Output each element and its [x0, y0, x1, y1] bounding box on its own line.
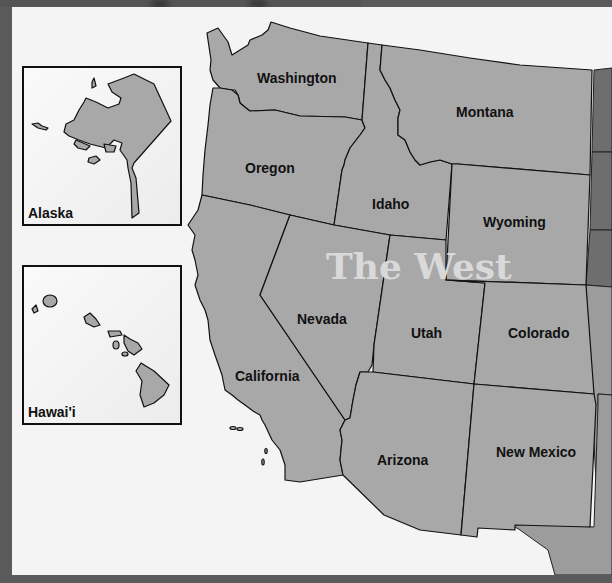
- island-lanai: [113, 341, 119, 349]
- label-nevada: Nevada: [297, 311, 347, 327]
- channel-island: [237, 428, 243, 431]
- island-molokai: [108, 331, 122, 337]
- bottom-frame-bar: [0, 575, 612, 583]
- island-kahoolawe: [122, 352, 128, 356]
- label-wyoming: Wyoming: [483, 214, 546, 230]
- island-hawaii: [136, 363, 169, 407]
- label-idaho: Idaho: [372, 196, 409, 212]
- inset-label-alaska: Alaska: [28, 205, 73, 221]
- island-niihau: [32, 305, 38, 313]
- label-oregon: Oregon: [245, 160, 295, 176]
- label-colorado: Colorado: [508, 325, 569, 341]
- inset-label-hawaii: Hawai'i: [28, 404, 76, 420]
- channel-island: [262, 459, 264, 465]
- channel-island: [265, 449, 267, 454]
- map-title: The West: [326, 245, 512, 287]
- island-oahu: [84, 313, 100, 327]
- label-utah: Utah: [411, 325, 442, 341]
- label-new-mexico: New Mexico: [496, 444, 576, 460]
- channel-island: [230, 427, 236, 430]
- alaska-shape: [24, 68, 179, 223]
- neighbor-south-dakota: [590, 152, 612, 230]
- neighbor-north-dakota: [592, 68, 612, 152]
- label-washington: Washington: [257, 70, 337, 86]
- inset-alaska: Alaska: [22, 66, 182, 226]
- state-new-mexico: [461, 384, 596, 537]
- label-california: California: [235, 368, 300, 384]
- island-kauai: [43, 295, 57, 307]
- label-arizona: Arizona: [377, 452, 428, 468]
- neighbor-nebraska: [586, 230, 612, 287]
- inset-hawaii: Hawai'i: [22, 265, 182, 425]
- label-montana: Montana: [456, 104, 514, 120]
- hawaii-shape: [24, 267, 179, 422]
